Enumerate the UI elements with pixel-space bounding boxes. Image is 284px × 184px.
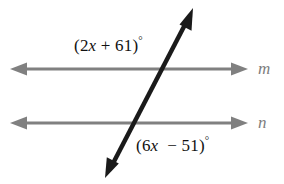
angle-top-degree-symbol: ° xyxy=(138,34,143,46)
line-n-left-arrowhead xyxy=(10,117,27,130)
angle-top-variable: x xyxy=(89,36,97,55)
angle-bottom-constant: 51 xyxy=(181,136,198,155)
line-label-n: n xyxy=(258,114,267,131)
angle-bottom-variable: x xyxy=(151,136,159,155)
angle-bottom-degree-symbol: ° xyxy=(205,134,210,146)
angle-top-constant: 61 xyxy=(115,36,132,55)
angle-bottom-operator: − xyxy=(167,136,177,155)
angle-label-bottom: (6x − 51)° xyxy=(136,137,209,154)
angle-top-coefficient: 2 xyxy=(80,36,89,55)
line-label-m: m xyxy=(258,60,270,77)
line-m-left-arrowhead xyxy=(10,63,27,76)
geometry-figure: (2x + 61)° (6x − 51)° m n xyxy=(0,0,284,184)
line-m-right-arrowhead xyxy=(231,63,248,76)
parallel-line-n xyxy=(10,117,248,130)
line-n-right-arrowhead xyxy=(231,117,248,130)
parallel-line-m xyxy=(10,63,248,76)
angle-label-top: (2x + 61)° xyxy=(74,37,143,54)
angle-top-operator: + xyxy=(101,36,111,55)
angle-bottom-coefficient: 6 xyxy=(142,136,151,155)
geometry-canvas xyxy=(0,0,284,184)
